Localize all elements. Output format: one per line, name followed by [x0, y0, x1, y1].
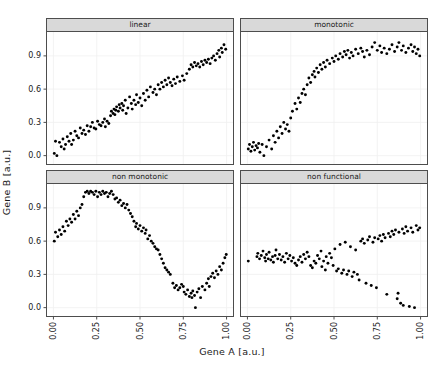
data-point [218, 265, 221, 268]
data-point [105, 191, 108, 194]
data-point [149, 85, 152, 88]
data-point [107, 122, 110, 125]
data-point [134, 103, 137, 106]
data-point [373, 236, 376, 239]
data-point [268, 251, 271, 254]
data-point [294, 102, 297, 105]
data-point [280, 259, 283, 262]
data-point [146, 237, 149, 240]
data-point [100, 124, 103, 127]
data-point [144, 232, 147, 235]
data-point [126, 203, 129, 206]
y-axis-title: Gene B [a.u.] [0, 0, 14, 365]
data-point [328, 252, 331, 255]
data-point [110, 190, 113, 193]
x-tick-label: 1.00 [416, 322, 425, 340]
data-point [205, 282, 208, 285]
y-tick-label: 0.6 [28, 85, 41, 94]
data-point [247, 260, 250, 263]
data-point [307, 77, 310, 80]
data-point [262, 250, 265, 253]
data-point [169, 81, 172, 84]
data-point [393, 50, 396, 53]
data-point [247, 148, 250, 151]
data-point [137, 101, 140, 104]
data-point [304, 93, 307, 96]
data-point [399, 302, 402, 305]
data-point [74, 218, 77, 221]
faceted-scatter-figure: Gene B [a.u.] Gene A [a.u.] linear0.00.3… [0, 0, 436, 365]
data-point [318, 257, 321, 260]
y-tick-label: 0.3 [28, 270, 41, 279]
data-point [131, 108, 134, 111]
data-point [378, 44, 381, 47]
data-point [58, 141, 61, 144]
data-point [270, 148, 273, 151]
data-point [221, 51, 224, 54]
data-point [211, 272, 214, 275]
data-point [279, 125, 282, 128]
data-point [384, 236, 387, 239]
data-point [208, 285, 211, 288]
data-point [174, 82, 177, 85]
data-point [267, 257, 270, 260]
data-point [301, 261, 304, 264]
data-point [269, 259, 272, 262]
data-point [58, 229, 61, 232]
panel-strip-label: monotonic [314, 20, 354, 29]
x-tick-label: 0.75 [179, 322, 188, 340]
data-point [112, 193, 115, 196]
data-point [343, 50, 346, 53]
data-point [253, 149, 256, 152]
data-point [77, 136, 80, 139]
data-point [197, 62, 200, 65]
data-point [326, 59, 329, 62]
facet-panel-monotonic: monotonic [241, 19, 428, 165]
data-point [199, 296, 202, 299]
data-point [66, 135, 69, 138]
data-point [337, 267, 340, 270]
data-point [167, 77, 170, 80]
y-tick-label: 0.6 [28, 237, 41, 246]
data-point [366, 239, 369, 242]
data-point [69, 132, 72, 135]
data-point [96, 120, 99, 123]
data-point [394, 229, 397, 232]
data-point [132, 220, 135, 223]
data-point [139, 224, 142, 227]
data-point [93, 193, 96, 196]
data-point [197, 287, 200, 290]
data-point [385, 52, 388, 55]
x-tick-label: 1.00 [222, 322, 231, 340]
data-point [324, 269, 327, 272]
data-point [91, 121, 94, 124]
data-point [396, 297, 399, 300]
data-point [137, 227, 140, 230]
data-point [265, 253, 268, 256]
data-point [418, 54, 421, 57]
data-point [75, 210, 78, 213]
data-point [63, 148, 66, 151]
data-point [60, 233, 63, 236]
data-point [65, 220, 68, 223]
data-point [272, 261, 275, 264]
data-point [407, 47, 410, 50]
data-point [160, 257, 163, 260]
data-point [356, 273, 359, 276]
data-point [147, 95, 150, 98]
data-point [109, 114, 112, 117]
data-point [317, 71, 320, 74]
data-point [118, 103, 121, 106]
data-point [188, 68, 191, 71]
data-point [413, 306, 416, 309]
data-point [313, 70, 316, 73]
data-point [79, 126, 82, 129]
data-point [301, 92, 304, 95]
data-point [382, 233, 385, 236]
data-point [96, 195, 99, 198]
data-point [264, 260, 267, 263]
data-point [148, 234, 151, 237]
data-point [193, 294, 196, 297]
data-point [404, 51, 407, 54]
data-point [252, 141, 255, 144]
